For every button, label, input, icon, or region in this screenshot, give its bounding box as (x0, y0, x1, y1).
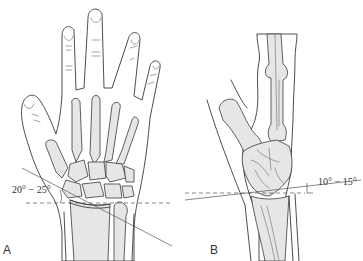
hand-dorsal-illustration (0, 0, 185, 261)
angle-label-b: 10° − 15° (318, 176, 357, 187)
wrist-angle-figure: 20° − 25° A 10° − (0, 0, 363, 261)
panel-letter-b: B (210, 243, 218, 257)
panel-a: 20° − 25° A (0, 0, 185, 261)
angle-label-a: 20° − 25° (12, 184, 51, 195)
panel-b: 10° − 15° B (185, 0, 363, 261)
panel-letter-a: A (3, 243, 11, 257)
hand-lateral-illustration (185, 0, 363, 261)
